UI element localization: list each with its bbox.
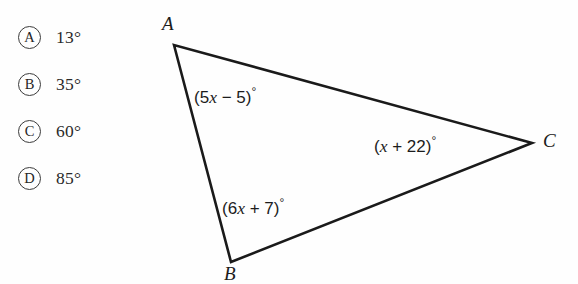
angle-label-b-variable: x: [237, 198, 245, 218]
triangle-diagram: A B C (5x − 5)° (6x + 7)° (x + 22)°: [0, 0, 578, 284]
angle-label-c: (x + 22)°: [374, 135, 436, 155]
angle-label-a-degree: °: [251, 85, 256, 99]
angle-label-a-prefix: (5: [194, 88, 209, 107]
vertex-label-b: B: [224, 264, 236, 283]
angle-label-c-middle: + 22): [387, 137, 431, 156]
angle-label-b-degree: °: [279, 196, 284, 210]
vertex-label-a: A: [162, 14, 174, 33]
vertex-label-c: C: [543, 131, 556, 150]
angle-label-b: (6x + 7)°: [222, 197, 284, 217]
angle-label-b-middle: + 7): [245, 199, 280, 218]
angle-label-a-variable: x: [209, 87, 217, 107]
triangle-outline: [174, 45, 532, 262]
angle-label-a: (5x − 5)°: [194, 86, 256, 106]
angle-label-c-degree: °: [431, 134, 436, 148]
triangle-shape: [0, 0, 578, 284]
geometry-question-figure: A 13° B 35° C 60° D 85° A B C (5x − 5)°: [0, 0, 578, 284]
angle-label-a-middle: − 5): [217, 88, 252, 107]
angle-label-b-prefix: (6: [222, 199, 237, 218]
